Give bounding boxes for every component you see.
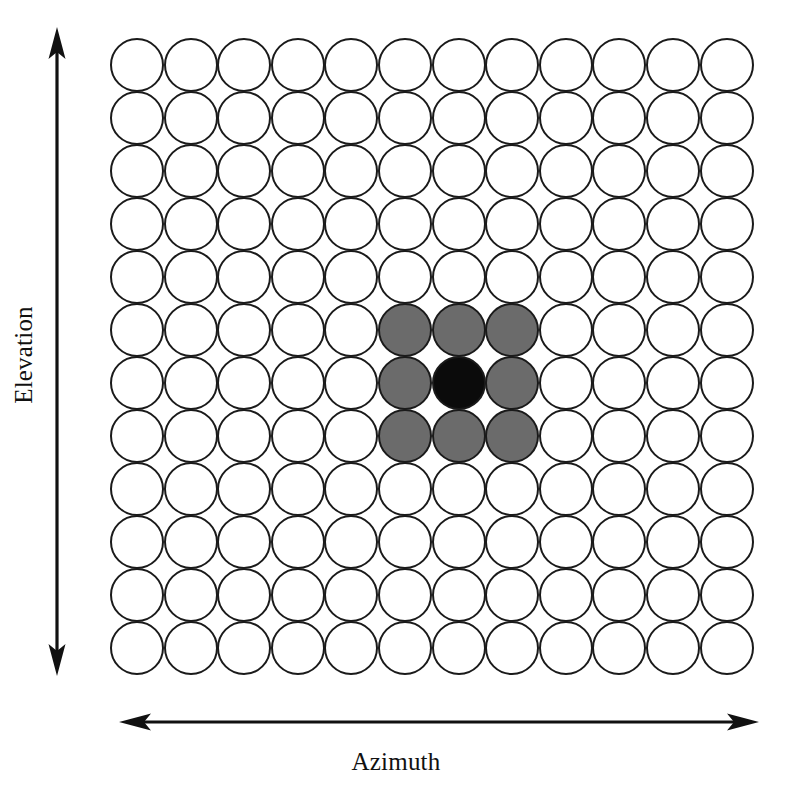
grid-circle-empty bbox=[592, 515, 646, 569]
grid-circle-empty bbox=[539, 197, 593, 251]
grid-circle-empty bbox=[485, 38, 539, 92]
grid-circle-empty bbox=[271, 197, 325, 251]
grid-circle-empty bbox=[539, 144, 593, 198]
grid-circle-empty bbox=[324, 38, 378, 92]
grid-circle-empty bbox=[324, 144, 378, 198]
grid-circle-empty bbox=[485, 568, 539, 622]
grid-circle-empty bbox=[432, 144, 486, 198]
grid-circle-empty bbox=[432, 250, 486, 304]
grid-circle-neighbor bbox=[485, 303, 539, 357]
grid-circle-empty bbox=[539, 462, 593, 516]
grid-circle-empty bbox=[700, 621, 754, 675]
grid-circle-empty bbox=[217, 568, 271, 622]
grid-circle-empty bbox=[432, 621, 486, 675]
grid-circle-empty bbox=[271, 38, 325, 92]
grid-circle-empty bbox=[271, 91, 325, 145]
grid-circle-empty bbox=[271, 462, 325, 516]
grid-circle-empty bbox=[110, 250, 164, 304]
grid-circle-empty bbox=[164, 356, 218, 410]
grid-circle-empty bbox=[700, 197, 754, 251]
grid-circle-empty bbox=[324, 250, 378, 304]
grid-circle-empty bbox=[378, 250, 432, 304]
grid-circle-empty bbox=[592, 38, 646, 92]
grid-circle-empty bbox=[164, 568, 218, 622]
grid-circle-empty bbox=[217, 515, 271, 569]
grid-circle-empty bbox=[592, 568, 646, 622]
grid-circle-empty bbox=[700, 409, 754, 463]
grid-circle-empty bbox=[378, 462, 432, 516]
grid-circle-empty bbox=[700, 462, 754, 516]
grid-circle-empty bbox=[700, 38, 754, 92]
grid-circle-empty bbox=[485, 91, 539, 145]
grid-circle-empty bbox=[539, 568, 593, 622]
grid-circle-empty bbox=[700, 515, 754, 569]
grid-circle-empty bbox=[217, 250, 271, 304]
grid-circle-empty bbox=[110, 91, 164, 145]
grid-circle-empty bbox=[592, 409, 646, 463]
grid-circle-empty bbox=[324, 356, 378, 410]
grid-circle-empty bbox=[432, 515, 486, 569]
grid-circle-empty bbox=[646, 621, 700, 675]
grid-circle-empty bbox=[646, 91, 700, 145]
grid-circle-empty bbox=[271, 621, 325, 675]
grid-circle-empty bbox=[324, 409, 378, 463]
grid-circle-neighbor bbox=[378, 356, 432, 410]
grid-circle-neighbor bbox=[432, 303, 486, 357]
grid-circle-empty bbox=[432, 568, 486, 622]
grid-circle-empty bbox=[164, 91, 218, 145]
grid-circle-empty bbox=[592, 303, 646, 357]
grid-circle-empty bbox=[110, 303, 164, 357]
grid-circle-empty bbox=[539, 91, 593, 145]
grid-circle-empty bbox=[324, 568, 378, 622]
grid-circle-empty bbox=[217, 409, 271, 463]
grid-circle-neighbor bbox=[378, 303, 432, 357]
grid-circle-empty bbox=[646, 197, 700, 251]
grid-circle-empty bbox=[646, 250, 700, 304]
grid-circle-empty bbox=[485, 515, 539, 569]
grid-circle-empty bbox=[378, 621, 432, 675]
grid-circle-empty bbox=[539, 250, 593, 304]
grid-circle-empty bbox=[646, 303, 700, 357]
grid-circle-neighbor bbox=[485, 356, 539, 410]
grid-circle-empty bbox=[485, 462, 539, 516]
grid-circle-empty bbox=[164, 462, 218, 516]
grid-circle-empty bbox=[271, 303, 325, 357]
grid-circle-empty bbox=[217, 38, 271, 92]
grid-circle-empty bbox=[217, 91, 271, 145]
grid-circle-empty bbox=[485, 144, 539, 198]
circle-grid bbox=[0, 0, 792, 802]
grid-circle-empty bbox=[217, 197, 271, 251]
grid-circle-empty bbox=[271, 515, 325, 569]
grid-circle-empty bbox=[164, 250, 218, 304]
grid-circle-empty bbox=[271, 568, 325, 622]
grid-circle-empty bbox=[378, 144, 432, 198]
grid-circle-empty bbox=[324, 91, 378, 145]
grid-circle-empty bbox=[324, 621, 378, 675]
grid-circle-empty bbox=[110, 462, 164, 516]
grid-circle-empty bbox=[592, 621, 646, 675]
grid-circle-empty bbox=[217, 144, 271, 198]
grid-circle-empty bbox=[271, 356, 325, 410]
grid-circle-empty bbox=[110, 197, 164, 251]
grid-circle-empty bbox=[110, 38, 164, 92]
grid-circle-empty bbox=[646, 462, 700, 516]
elevation-axis-label: Elevation bbox=[10, 205, 38, 505]
grid-circle-empty bbox=[539, 38, 593, 92]
grid-circle-empty bbox=[110, 568, 164, 622]
grid-circle-empty bbox=[110, 144, 164, 198]
grid-circle-empty bbox=[646, 409, 700, 463]
grid-circle-empty bbox=[164, 197, 218, 251]
grid-circle-center bbox=[432, 356, 486, 410]
grid-circle-empty bbox=[592, 250, 646, 304]
grid-circle-empty bbox=[700, 303, 754, 357]
grid-circle-empty bbox=[271, 250, 325, 304]
grid-circle-empty bbox=[110, 621, 164, 675]
grid-circle-empty bbox=[324, 515, 378, 569]
grid-circle-empty bbox=[324, 462, 378, 516]
grid-circle-empty bbox=[539, 515, 593, 569]
grid-circle-empty bbox=[700, 356, 754, 410]
grid-circle-neighbor bbox=[485, 409, 539, 463]
grid-circle-empty bbox=[164, 303, 218, 357]
grid-circle-empty bbox=[646, 356, 700, 410]
grid-circle-empty bbox=[432, 462, 486, 516]
